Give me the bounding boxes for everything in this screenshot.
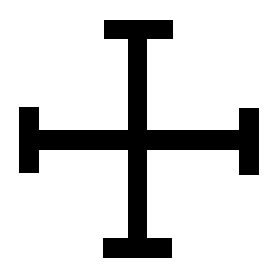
left-bar (19, 107, 39, 173)
horizontal-arm (38, 130, 240, 150)
bottom-bar (103, 238, 172, 258)
cross-potent-figure (0, 0, 275, 276)
right-bar (239, 108, 259, 175)
top-bar (104, 20, 173, 39)
